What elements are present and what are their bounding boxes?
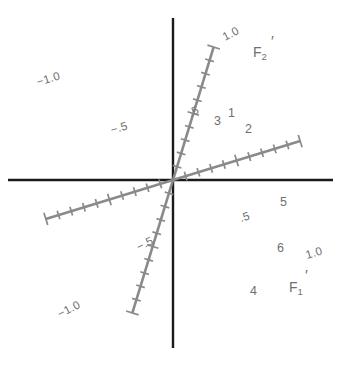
f1-label-base: F xyxy=(289,279,298,295)
data-point-label-2: 2 xyxy=(245,122,252,136)
plot-canvas: 1.0 .5 −.5 −1.0 1.0 .5 −.5 −1.0 F1 ′ F2 … xyxy=(0,0,344,365)
f1-tick-label-neg-1: −1.0 xyxy=(35,69,61,87)
f1-label-subscript: 1 xyxy=(298,286,303,297)
data-point-label-3: 3 xyxy=(214,114,221,128)
f2-prime-axis-label: F2 ′ xyxy=(253,32,274,62)
data-point-label-6: 6 xyxy=(277,241,284,255)
f2-tick-label-pos-1: 1.0 xyxy=(220,24,240,42)
f2-label-subscript: 2 xyxy=(262,51,267,62)
f1-tick-label-pos-1: 1.0 xyxy=(304,244,324,260)
f1-label-prime: ′ xyxy=(305,266,308,283)
f1-prime-axis-label: F1 ′ xyxy=(289,266,308,297)
f2-tick-label-neg-1: −1.0 xyxy=(55,298,82,320)
data-point-label-1: 1 xyxy=(228,106,235,120)
rotated-factor-plot: 1.0 .5 −.5 −1.0 1.0 .5 −.5 −1.0 F1 ′ F2 … xyxy=(0,0,344,365)
data-point-label-4: 4 xyxy=(250,284,257,298)
data-point-label-5: 5 xyxy=(280,195,287,209)
svg-text:F2: F2 xyxy=(253,44,267,62)
f2-tick-label-pos-half: .5 xyxy=(186,103,201,118)
f1-tick-label-neg-half: −.5 xyxy=(109,119,129,136)
f2-label-base: F xyxy=(253,44,262,60)
f2-label-prime: ′ xyxy=(271,32,274,49)
f1-tick-label-pos-half: .5 xyxy=(238,209,251,223)
svg-text:F1: F1 xyxy=(289,279,303,297)
